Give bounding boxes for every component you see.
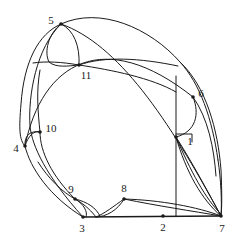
vertex-label-2: 2	[160, 222, 166, 233]
vertex-dot-9	[73, 197, 77, 201]
edge-arc-6-down-to-1	[176, 97, 196, 137]
edge-arc-11-right-low	[79, 65, 176, 92]
vertex-label-4: 4	[13, 143, 19, 154]
vertex-label-3: 3	[79, 223, 85, 234]
vertex-label-6: 6	[198, 88, 204, 99]
edge-spine-5-to-11	[61, 24, 79, 65]
edge-outer-top-right	[61, 18, 218, 160]
vertex-label-10: 10	[46, 123, 57, 134]
edge-arc-8-left-to-base	[96, 199, 124, 217]
vertex-dot-4	[23, 144, 27, 148]
vertex-dot-2	[161, 214, 165, 218]
vertex-dot-3	[81, 215, 85, 219]
vertex-dot-11	[77, 63, 81, 67]
graph-canvas	[0, 0, 241, 241]
vertex-label-5: 5	[48, 15, 54, 26]
edge-arc-5-to-11-left	[47, 24, 79, 66]
edge-arc-11-to-left-rim	[33, 62, 79, 65]
edge-lens-left-outer	[30, 24, 83, 217]
vertex-dot-7	[219, 214, 223, 218]
vertex-dot-1	[174, 135, 178, 139]
curve-arrangement-figure: 1234567891011	[0, 0, 241, 241]
edge-arc-10-up	[38, 70, 40, 132]
vertex-label-7: 7	[219, 223, 225, 234]
vertex-dot-6	[191, 95, 195, 99]
vertex-label-8: 8	[121, 183, 127, 194]
vertex-label-11: 11	[81, 70, 92, 81]
vertex-label-1: 1	[187, 136, 193, 147]
vertex-label-9: 9	[68, 184, 74, 195]
vertex-dot-8	[122, 197, 126, 201]
vertex-dot-5	[59, 22, 63, 26]
vertex-dot-10	[38, 130, 42, 134]
